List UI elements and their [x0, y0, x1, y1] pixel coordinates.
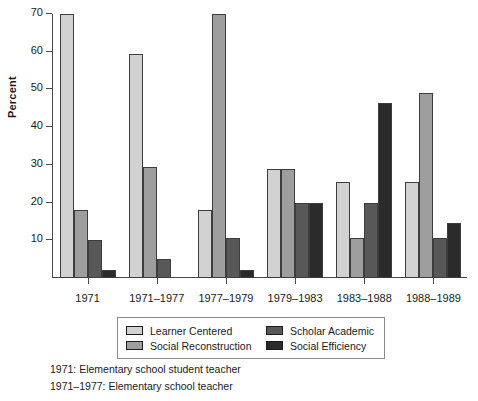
y-tick-50: 50: [46, 88, 52, 89]
footnote: 1971: Elementary school student teacher: [50, 363, 241, 375]
y-tick-70: 70: [46, 13, 52, 14]
y-tick-30: 30: [46, 164, 52, 165]
legend-label: Social Efficiency: [290, 340, 366, 352]
legend-item: Scholar Academic: [266, 325, 394, 337]
legend-swatch-icon: [126, 326, 143, 335]
legend-swatch-icon: [126, 341, 143, 350]
bar-learner-centered: [405, 182, 419, 278]
bar-group-bars: [60, 14, 116, 278]
bar-social-reconstruction: [212, 14, 226, 278]
footnote-list: 1971: Elementary school student teacher1…: [50, 363, 241, 397]
legend-label: Learner Centered: [150, 325, 232, 337]
legend-item: Social Efficiency: [266, 340, 394, 352]
bar-social-efficiency: [102, 270, 116, 278]
bar-learner-centered: [129, 54, 143, 278]
y-tick-label: 70: [31, 6, 43, 18]
bar-social-reconstruction: [74, 210, 88, 278]
bar-social-efficiency: [447, 223, 461, 278]
x-tick-label: 1971–1977: [129, 292, 184, 304]
bar-scholar-academic: [226, 238, 240, 278]
bar-social-reconstruction: [419, 93, 433, 278]
legend-label: Social Reconstruction: [150, 340, 252, 352]
y-tick-label: 50: [31, 81, 43, 93]
y-tick-20: 20: [46, 202, 52, 203]
x-tick-label: 1983–1988: [337, 292, 392, 304]
y-axis-title: Percent: [6, 102, 18, 118]
bar-scholar-academic: [433, 238, 447, 278]
x-tick-label: 1979–1983: [268, 292, 323, 304]
bar-group: 1971–1977: [129, 14, 191, 278]
x-tick-label: 1977–1979: [198, 292, 253, 304]
bar-group-bars: [336, 14, 392, 278]
x-tick: [157, 278, 158, 284]
y-tick-10: 10: [46, 239, 52, 240]
x-tick: [364, 278, 365, 284]
footnote: 1971–1977: Elementary school teacher: [50, 380, 241, 392]
y-tick-label: 60: [31, 44, 43, 56]
chart-legend: Learner CenteredScholar AcademicSocial R…: [117, 317, 385, 359]
plot-area: 10203040506070 19711971–19771977–1979197…: [52, 14, 467, 278]
bar-social-reconstruction: [350, 238, 364, 278]
bar-chart-figure: Percent 10203040506070 19711971–19771977…: [0, 0, 478, 401]
bar-group-bars: [198, 14, 254, 278]
bar-scholar-academic: [157, 259, 171, 278]
x-tick: [433, 278, 434, 284]
bar-scholar-academic: [295, 203, 309, 278]
y-tick-label: 20: [31, 195, 43, 207]
x-tick-label: 1988–1989: [406, 292, 461, 304]
bar-group-bars: [129, 14, 185, 278]
bar-social-efficiency: [309, 203, 323, 278]
bar-learner-centered: [60, 14, 74, 278]
y-axis-line: [52, 14, 53, 278]
bar-group: 1977–1979: [198, 14, 260, 278]
bar-learner-centered: [267, 169, 281, 278]
legend-item: Social Reconstruction: [126, 340, 266, 352]
y-tick-label: 40: [31, 119, 43, 131]
y-tick-60: 60: [46, 51, 52, 52]
bar-group: 1983–1988: [336, 14, 398, 278]
y-tick-label: 30: [31, 157, 43, 169]
y-tick-label: 10: [31, 232, 43, 244]
bar-social-efficiency: [378, 103, 392, 278]
bar-group-bars: [267, 14, 323, 278]
bar-scholar-academic: [364, 203, 378, 278]
bar-social-reconstruction: [143, 167, 157, 278]
legend-swatch-icon: [266, 341, 283, 350]
legend-item: Learner Centered: [126, 325, 266, 337]
bar-group: 1971: [60, 14, 122, 278]
bar-social-efficiency: [240, 270, 254, 278]
x-tick: [88, 278, 89, 284]
bar-social-reconstruction: [281, 169, 295, 278]
x-tick-label: 1971: [75, 292, 99, 304]
x-tick: [295, 278, 296, 284]
legend-label: Scholar Academic: [290, 325, 374, 337]
y-tick-40: 40: [46, 126, 52, 127]
bar-group: 1988–1989: [405, 14, 467, 278]
bar-scholar-academic: [88, 240, 102, 278]
bar-group: 1979–1983: [267, 14, 329, 278]
bar-group-bars: [405, 14, 461, 278]
legend-swatch-icon: [266, 326, 283, 335]
bar-learner-centered: [198, 210, 212, 278]
bar-learner-centered: [336, 182, 350, 278]
x-tick: [226, 278, 227, 284]
